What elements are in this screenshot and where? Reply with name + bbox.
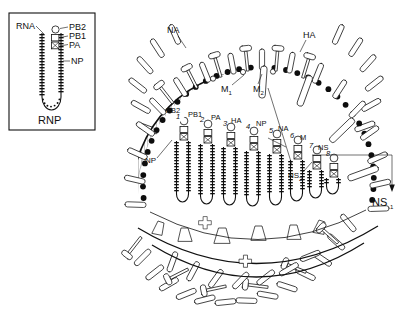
segment-number: 1 — [176, 112, 180, 121]
inset-label-rna: RNA — [16, 21, 35, 31]
inset-label-pa: PA — [69, 40, 80, 50]
label-np-internal: NP — [145, 156, 156, 165]
segment-number: 2 — [199, 115, 205, 124]
svg-text:NS: NS — [372, 196, 387, 208]
inset-label-np: NP — [71, 56, 84, 66]
ha-spike[interactable] — [125, 202, 146, 208]
inset-pa-subunit — [52, 42, 59, 49]
label-na-surface: NA — [167, 25, 180, 35]
segment-gene-label: NP — [256, 119, 266, 128]
label-ha-surface: HA — [303, 30, 316, 40]
inset-pb1-subunit — [52, 35, 59, 41]
inset-caption-rnp: RNP — [38, 114, 61, 126]
segment-gene-label: M — [300, 133, 306, 142]
segment-gene-label: HA — [231, 116, 241, 125]
rnp-inset-panel: RNA PB2 PB1 PA NP RNP — [9, 13, 95, 130]
segment-gene-label: NS — [318, 143, 328, 152]
inset-pb2-subunit — [52, 26, 59, 33]
svg-text:M: M — [221, 84, 229, 94]
segment-number: 4 — [246, 122, 250, 131]
influenza-virion-diagram: RNA PB2 PB1 PA NP RNP — [0, 0, 402, 323]
segment-gene-label: NA — [278, 124, 288, 133]
svg-text:NS: NS — [288, 171, 299, 180]
svg-text:M: M — [253, 84, 261, 94]
label-pa-segment: PA — [211, 113, 220, 122]
